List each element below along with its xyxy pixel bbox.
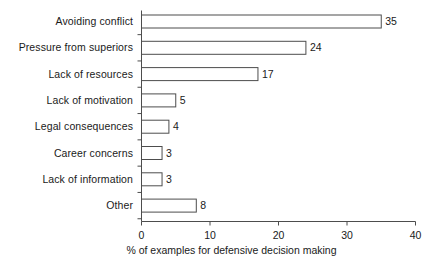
category-label-text: Avoiding conflict xyxy=(56,15,133,28)
bar-chart: Avoiding conflictPressure from superiors… xyxy=(0,0,437,265)
bar-value-label: 35 xyxy=(385,15,397,28)
bar xyxy=(142,199,197,212)
category-label-text: Lack of information xyxy=(42,173,133,186)
x-axis-tick-label: 10 xyxy=(204,229,216,241)
x-axis-title-text: % of examples for defensive decision mak… xyxy=(100,244,336,256)
category-label: Avoiding conflict xyxy=(0,15,133,28)
bar xyxy=(142,41,306,54)
bar xyxy=(142,68,258,81)
x-axis-title: % of examples for defensive decision mak… xyxy=(0,244,437,256)
bar-value-label: 8 xyxy=(200,199,206,212)
x-axis-tick-label: 0 xyxy=(139,229,145,241)
category-label-text: Lack of motivation xyxy=(47,94,133,107)
bar-value-label: 3 xyxy=(166,173,172,186)
category-label-text: Lack of resources xyxy=(48,68,133,81)
category-label-text: Other xyxy=(106,199,133,212)
category-label: Pressure from superiors xyxy=(0,41,133,54)
bar xyxy=(142,120,169,133)
bar-value-label: 4 xyxy=(173,120,179,133)
bars-group xyxy=(142,15,382,212)
bar xyxy=(142,94,176,107)
x-axis-tick-label: 40 xyxy=(410,229,422,241)
bar-value-label: 17 xyxy=(262,68,274,81)
category-label: Other xyxy=(0,199,133,212)
category-label-text: Career concerns xyxy=(54,147,133,160)
category-label: Legal consequences xyxy=(0,120,133,133)
bar-value-label: 24 xyxy=(310,41,322,54)
category-label-text: Legal consequences xyxy=(35,120,133,133)
category-label: Lack of resources xyxy=(0,68,133,81)
bar-value-label: 5 xyxy=(180,94,186,107)
category-label: Lack of motivation xyxy=(0,94,133,107)
bar xyxy=(142,15,382,28)
category-label-text: Pressure from superiors xyxy=(19,41,133,54)
bar-value-label: 3 xyxy=(166,147,172,160)
category-label: Career concerns xyxy=(0,147,133,160)
bar xyxy=(142,147,163,160)
bar xyxy=(142,173,163,186)
x-axis-tick-label: 30 xyxy=(341,229,353,241)
category-label: Lack of information xyxy=(0,173,133,186)
x-axis-tick-label: 20 xyxy=(273,229,285,241)
